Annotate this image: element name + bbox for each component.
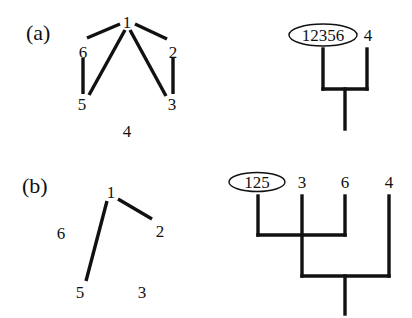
node-3: 3: [138, 283, 147, 302]
node-6: 6: [79, 43, 88, 62]
edge-1-5: [89, 30, 125, 95]
leaf-12356: 12356: [302, 26, 345, 45]
edge-1-3: [130, 30, 166, 96]
node-1: 1: [107, 183, 116, 202]
panel-b-label: (b): [22, 173, 48, 198]
panel-a: (a) 1 2 3 4 5 6 12356 4: [26, 13, 373, 141]
node-5: 5: [78, 95, 87, 114]
leaf-3: 3: [298, 173, 307, 192]
panel-a-dendrogram: 12356 4: [289, 24, 373, 129]
edge-1-2: [118, 199, 152, 219]
panel-b-graph: 1 2 3 5 6: [57, 183, 165, 302]
panel-a-graph: 1 2 3 4 5 6: [78, 13, 178, 141]
edge-1-6: [87, 24, 120, 38]
node-1: 1: [123, 13, 132, 32]
panel-a-label: (a): [26, 20, 50, 45]
panel-b: (b) 1 2 3 5 6 125 3 6 4: [22, 173, 394, 315]
panel-b-dendrogram: 125 3 6 4: [229, 173, 394, 315]
leaf-6: 6: [341, 173, 350, 192]
leaf-4: 4: [385, 173, 394, 192]
leaf-125: 125: [244, 173, 270, 192]
figure: (a) 1 2 3 4 5 6 12356 4 (b): [0, 0, 412, 318]
node-2: 2: [169, 43, 178, 62]
node-2: 2: [156, 222, 165, 241]
node-6: 6: [57, 224, 66, 243]
edge-1-5: [86, 201, 107, 281]
node-4: 4: [123, 122, 132, 141]
edge-1-2: [135, 24, 167, 39]
node-3: 3: [168, 95, 177, 114]
node-5: 5: [76, 283, 85, 302]
leaf-4: 4: [364, 26, 373, 45]
